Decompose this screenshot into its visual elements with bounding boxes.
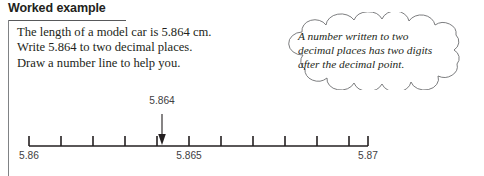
problem-line: Draw a number line to help you. (17, 56, 267, 71)
number-line-tick-label: 5.87 (358, 150, 378, 161)
number-line-graphic (0, 92, 484, 176)
thought-bubble-text: A number written to two decimal places h… (298, 29, 456, 72)
problem-statement: The length of a model car is 5.864 cm. W… (17, 25, 267, 71)
thought-bubble-line: decimal places has two digits (298, 43, 456, 57)
value-arrow (158, 114, 166, 145)
problem-line: The length of a model car is 5.864 cm. (17, 25, 267, 40)
number-line-callout-label: 5.864 (149, 95, 175, 106)
number-line-tick-label: 5.865 (176, 150, 202, 161)
worked-example-figure: Worked example The length of a model car… (0, 0, 484, 176)
number-line-diagram: 5.864 5.86 5.865 5.87 (0, 92, 484, 176)
number-line-tick-label: 5.86 (19, 150, 39, 161)
number-line-ticks (29, 136, 368, 146)
heading-divider (8, 20, 126, 21)
thought-bubble-line: A number written to two (298, 29, 456, 43)
problem-line: Write 5.864 to two decimal places. (17, 40, 267, 55)
page-title: Worked example (8, 1, 106, 15)
thought-bubble: A number written to two decimal places h… (272, 12, 472, 90)
thought-bubble-line: after the decimal point. (298, 57, 456, 71)
